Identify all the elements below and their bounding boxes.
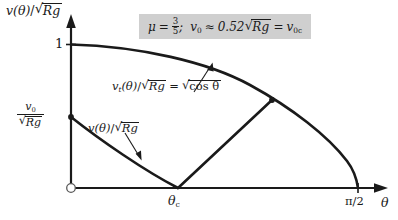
y-tick-label-v0: v0 Rg	[17, 101, 44, 128]
y-tick-label-one: 1	[55, 37, 63, 50]
annotation-v0-value: 0.52	[218, 20, 245, 34]
annotation-mu-den: 5	[172, 27, 179, 36]
v-label-arg: (θ)	[95, 121, 111, 135]
x-tick-label-pi-half: π/2	[345, 196, 364, 208]
sqrt-cos-curve	[71, 45, 358, 189]
y-tick-v0-sqrt-icon: Rg	[19, 116, 42, 129]
vt-label-sqrt-arg: Rg	[148, 80, 166, 93]
y-axis-label-sqrt-icon: Rg	[35, 3, 61, 17]
curve-label-v: v(θ)/Rg	[88, 122, 139, 135]
vt-label-equals: =	[169, 79, 179, 93]
v-label-sqrt-icon: Rg	[115, 122, 139, 135]
y-tick-v0-num-sub: 0	[31, 106, 35, 114]
y-axis-label-sqrt-arg: Rg	[42, 3, 62, 17]
vt-label-rhs-sqrt-icon: cos θ	[182, 80, 220, 93]
point-junction	[269, 97, 275, 103]
annotation-sqrt-icon: Rg	[245, 19, 270, 34]
y-axis	[66, 14, 76, 188]
velocity-theta-plot: v(θ)/Rg 1 v0 Rg θc π/2 θ vt(θ)/Rg=cos θ …	[0, 0, 398, 220]
y-axis-label: v(θ)/Rg	[6, 3, 62, 17]
x-tick-theta-symbol: θ	[168, 193, 176, 208]
x-axis-label: θ	[381, 197, 389, 210]
annotation-v0: v	[190, 20, 197, 34]
curve-label-vt: vt(θ)/Rg=cos θ	[112, 80, 221, 94]
annotation-approx: ≈	[205, 20, 215, 34]
annotation-sqrt-arg: Rg	[251, 19, 270, 34]
annotation-v0c-sub: 0c	[293, 26, 302, 35]
annotation-mu-equals: =	[159, 20, 169, 34]
v-ascending-branch	[178, 100, 272, 188]
annotation-equals: =	[274, 20, 284, 34]
vt-label-rhs-sqrt-arg: cos θ	[188, 80, 220, 93]
y-axis-label-v: v	[6, 3, 13, 18]
origin-marker-icon	[67, 184, 76, 193]
y-tick-v0-sqrt-arg: Rg	[25, 116, 43, 129]
y-tick-v0-denominator: Rg	[17, 115, 44, 128]
annotation-mu-fraction: 3 5	[172, 17, 179, 35]
y-axis-label-arg: (θ)	[13, 3, 30, 18]
annotation-mu: μ	[148, 20, 156, 34]
point-v0-start	[68, 114, 74, 120]
x-tick-label-theta-c: θc	[168, 195, 180, 209]
vt-label-sqrt-icon: Rg	[142, 80, 166, 93]
annotation-v0-sub: 0	[197, 26, 202, 35]
parameter-annotation-box: μ= 3 5 ;v0≈0.52Rg=v0c	[139, 14, 311, 39]
annotation-separator: ;	[179, 20, 183, 34]
x-axis	[71, 183, 388, 193]
v-label-sqrt-arg: Rg	[121, 122, 139, 135]
vt-label-arg: (θ)	[121, 79, 137, 93]
x-tick-theta-sub: c	[176, 200, 180, 209]
